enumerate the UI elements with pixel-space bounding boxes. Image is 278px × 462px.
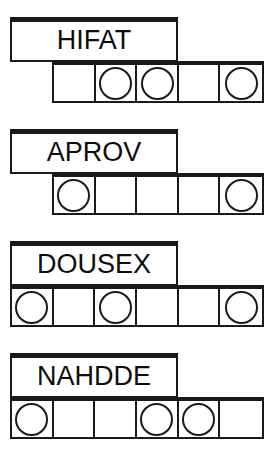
answer-cell[interactable] xyxy=(137,65,179,101)
answer-cell[interactable] xyxy=(95,401,137,437)
answer-cell[interactable] xyxy=(179,65,221,101)
answer-cell-row xyxy=(52,61,264,103)
answer-cell-row xyxy=(52,173,264,215)
word-label-text: DOUSEX xyxy=(37,251,151,278)
answer-cell-row xyxy=(10,397,264,439)
word-label-text: NAHDDE xyxy=(37,363,151,390)
answer-cell[interactable] xyxy=(220,289,262,325)
word-label-box[interactable]: NAHDDE xyxy=(10,353,178,398)
answer-cell[interactable] xyxy=(54,177,96,213)
answer-cell[interactable] xyxy=(220,177,262,213)
word-label-box[interactable]: APROV xyxy=(10,129,178,174)
answer-cell[interactable] xyxy=(137,401,179,437)
answer-cell[interactable] xyxy=(96,65,138,101)
answer-cell[interactable] xyxy=(179,177,221,213)
puzzle-root: HIFAT APROV DOUSEX xyxy=(0,0,278,462)
answer-cell[interactable] xyxy=(220,401,262,437)
answer-cell[interactable] xyxy=(54,65,96,101)
word-label-text: APROV xyxy=(47,139,142,166)
answer-cell-row xyxy=(10,285,264,327)
word-label-box[interactable]: DOUSEX xyxy=(10,241,178,286)
answer-cell[interactable] xyxy=(54,289,96,325)
answer-cell[interactable] xyxy=(179,289,221,325)
answer-cell[interactable] xyxy=(12,401,54,437)
answer-cell[interactable] xyxy=(12,289,54,325)
answer-cell[interactable] xyxy=(96,177,138,213)
answer-cell[interactable] xyxy=(137,289,179,325)
answer-cell[interactable] xyxy=(220,65,262,101)
answer-cell[interactable] xyxy=(137,177,179,213)
word-label-box[interactable]: HIFAT xyxy=(10,17,178,62)
answer-cell[interactable] xyxy=(95,289,137,325)
answer-cell[interactable] xyxy=(179,401,221,437)
word-label-text: HIFAT xyxy=(57,27,132,54)
answer-cell[interactable] xyxy=(54,401,96,437)
